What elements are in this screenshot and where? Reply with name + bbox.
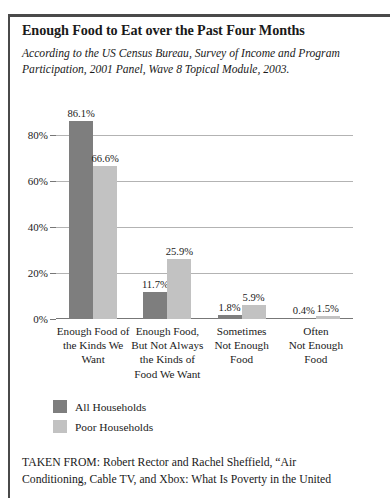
legend-swatch-icon <box>53 420 67 433</box>
bar-all-households[interactable] <box>143 292 167 319</box>
bar-poor-households[interactable] <box>242 305 266 319</box>
bar-all-households[interactable] <box>69 121 93 319</box>
y-axis-tick-label: 40% <box>0 221 48 233</box>
y-axis-tick-mark <box>50 319 56 320</box>
category-label-line: Food We Want <box>122 367 212 381</box>
y-axis-tick-label: 80% <box>0 129 48 141</box>
source-attribution: TAKEN FROM: Robert Rector and Rachel She… <box>22 455 382 489</box>
category-label-line: Food <box>271 352 361 366</box>
legend-swatch-icon <box>53 400 67 413</box>
gridline <box>56 135 353 136</box>
y-axis-tick-label: 0% <box>0 313 48 325</box>
y-axis-tick-label: 60% <box>0 175 48 187</box>
bar-poor-households[interactable] <box>167 259 191 319</box>
bar-poor-households[interactable] <box>93 166 117 319</box>
y-axis-tick-mark <box>50 135 56 136</box>
category-label-line: Often <box>271 324 361 338</box>
legend-item[interactable]: Poor Households <box>53 420 153 433</box>
y-axis-tick-mark <box>50 181 56 182</box>
bar-poor-households[interactable] <box>316 316 340 319</box>
source-line-2: Conditioning, Cable TV, and Xbox: What I… <box>22 472 382 489</box>
source-line-1: TAKEN FROM: Robert Rector and Rachel She… <box>22 455 382 472</box>
y-axis-tick-label: 20% <box>0 267 48 279</box>
bar-value-label: 66.6% <box>84 153 126 164</box>
bar-all-households[interactable] <box>218 315 242 319</box>
category-label: OftenNot EnoughFood <box>271 324 361 367</box>
bar-value-label: 25.9% <box>158 246 200 257</box>
legend-label: All Households <box>75 401 146 413</box>
bar-all-households[interactable] <box>292 318 316 319</box>
legend-label: Poor Households <box>75 421 153 433</box>
legend-item[interactable]: All Households <box>53 400 146 413</box>
bar-value-label: 5.9% <box>233 292 275 303</box>
category-label-line: Not Enough <box>271 338 361 352</box>
plot-area: 86.1%66.6%11.7%25.9%1.8%5.9%0.4%1.5% <box>56 112 353 319</box>
bar-value-label: 86.1% <box>60 108 102 119</box>
y-axis-tick-mark <box>50 273 56 274</box>
y-axis-tick-mark <box>50 227 56 228</box>
bar-value-label: 1.5% <box>307 303 349 314</box>
figure-page: Enough Food to Eat over the Past Four Mo… <box>0 0 390 498</box>
